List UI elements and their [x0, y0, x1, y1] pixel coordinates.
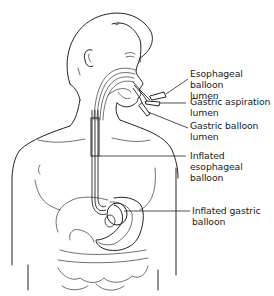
- anatomy-illustration: [0, 0, 274, 296]
- label-inflated-esophageal-balloon: Inflated esophageal balloon: [190, 150, 274, 183]
- diagram-canvas: Esophageal balloon lumen Gastric aspirat…: [0, 0, 274, 296]
- label-gastric-balloon-lumen: Gastric balloon lumen: [190, 120, 258, 142]
- tamponade-tube: [91, 82, 150, 214]
- head-outline: [67, 13, 152, 126]
- label-inflated-gastric-balloon: Inflated gastric balloon: [192, 205, 260, 227]
- airway-arcs: [94, 68, 136, 120]
- label-gastric-aspiration-lumen: Gastric aspiration lumen: [190, 96, 270, 118]
